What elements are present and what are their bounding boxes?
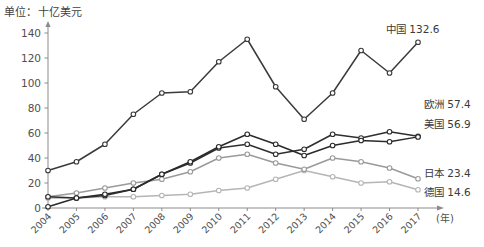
data-point bbox=[74, 159, 79, 164]
x-tick-label: 2004 bbox=[29, 211, 54, 236]
data-point bbox=[330, 132, 335, 137]
y-tick-label: 120 bbox=[21, 52, 41, 64]
data-point bbox=[131, 112, 136, 117]
data-point bbox=[416, 40, 421, 45]
data-point bbox=[387, 139, 392, 144]
data-point bbox=[302, 117, 307, 122]
y-tick-label: 80 bbox=[28, 102, 41, 114]
data-point bbox=[46, 204, 51, 209]
data-point bbox=[416, 135, 421, 140]
data-point bbox=[387, 179, 392, 184]
y-tick-label: 60 bbox=[28, 127, 41, 139]
data-point bbox=[103, 142, 108, 147]
data-point bbox=[273, 177, 278, 182]
x-tick-label: 2016 bbox=[370, 211, 395, 236]
chart-canvas: 0204060801001201402004200520062007200820… bbox=[0, 0, 484, 247]
data-point bbox=[188, 169, 193, 174]
data-point bbox=[160, 91, 165, 96]
data-point bbox=[273, 161, 278, 166]
data-point bbox=[359, 138, 364, 143]
x-tick-label: 2007 bbox=[114, 211, 139, 236]
x-tick-label: 2006 bbox=[85, 211, 110, 236]
data-point bbox=[416, 176, 421, 181]
data-point bbox=[46, 194, 51, 199]
data-point bbox=[245, 37, 250, 42]
x-axis-arrow bbox=[437, 205, 444, 210]
data-point bbox=[188, 192, 193, 197]
series-end-label-德国: 德国 14.6 bbox=[424, 186, 471, 198]
y-tick-label: 100 bbox=[21, 77, 41, 89]
series-line bbox=[48, 39, 418, 170]
data-point bbox=[74, 196, 79, 201]
data-point bbox=[103, 186, 108, 191]
data-point bbox=[103, 192, 108, 197]
data-point bbox=[330, 156, 335, 161]
data-point bbox=[46, 168, 51, 173]
data-point bbox=[302, 147, 307, 152]
data-point bbox=[302, 167, 307, 172]
data-point bbox=[160, 177, 165, 182]
x-tick-label: 2014 bbox=[313, 211, 338, 236]
data-point bbox=[160, 172, 165, 177]
data-point bbox=[160, 193, 165, 198]
data-point bbox=[188, 89, 193, 94]
y-tick-label: 20 bbox=[28, 177, 41, 189]
data-point bbox=[245, 152, 250, 157]
data-point bbox=[131, 181, 136, 186]
series-中国 bbox=[46, 37, 421, 173]
data-point bbox=[216, 188, 221, 193]
x-tick-label: 2013 bbox=[285, 211, 310, 236]
x-axis-unit-label: (年) bbox=[436, 212, 454, 224]
x-tick-label: 2015 bbox=[342, 211, 367, 236]
data-point bbox=[387, 129, 392, 134]
line-chart: 单位：十亿美元 02040608010012014020042005200620… bbox=[0, 0, 484, 247]
data-point bbox=[273, 152, 278, 157]
data-point bbox=[416, 187, 421, 192]
data-point bbox=[330, 174, 335, 179]
data-point bbox=[359, 48, 364, 53]
x-tick-label: 2011 bbox=[228, 211, 253, 236]
data-point bbox=[302, 153, 307, 158]
data-point bbox=[359, 159, 364, 164]
series-end-label-欧洲: 欧洲 57.4 bbox=[424, 98, 471, 110]
y-tick-label: 140 bbox=[21, 27, 41, 39]
data-point bbox=[387, 166, 392, 171]
series-end-label-日本: 日本 23.4 bbox=[424, 167, 471, 179]
data-point bbox=[359, 181, 364, 186]
data-point bbox=[273, 142, 278, 147]
series-日本 bbox=[46, 152, 421, 199]
data-point bbox=[131, 187, 136, 192]
x-tick-label: 2005 bbox=[57, 211, 82, 236]
x-tick-label: 2017 bbox=[399, 211, 424, 236]
data-point bbox=[330, 143, 335, 148]
data-point bbox=[216, 144, 221, 149]
series-end-label-美国: 美国 56.9 bbox=[424, 118, 471, 130]
y-tick-label: 40 bbox=[28, 152, 41, 164]
x-tick-label: 2008 bbox=[142, 211, 167, 236]
x-tick-label: 2012 bbox=[256, 211, 281, 236]
data-point bbox=[188, 159, 193, 164]
data-point bbox=[245, 186, 250, 191]
data-point bbox=[216, 59, 221, 64]
data-point bbox=[74, 191, 79, 196]
data-point bbox=[273, 84, 278, 89]
series-end-label-中国: 中国 132.6 bbox=[386, 23, 440, 35]
y-axis-arrow bbox=[45, 21, 50, 27]
data-point bbox=[245, 142, 250, 147]
data-point bbox=[330, 91, 335, 96]
data-point bbox=[216, 156, 221, 161]
data-point bbox=[387, 71, 392, 76]
data-point bbox=[131, 194, 136, 199]
x-tick-label: 2010 bbox=[199, 211, 224, 236]
x-tick-label: 2009 bbox=[171, 211, 196, 236]
data-point bbox=[245, 132, 250, 137]
y-tick-label: 0 bbox=[34, 202, 41, 214]
